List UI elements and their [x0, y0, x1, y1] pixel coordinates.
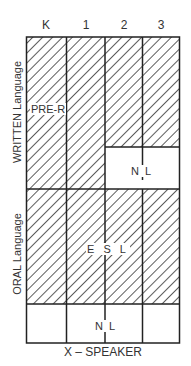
region-label-pre-r: PRE-R	[30, 103, 66, 115]
region-label-nl-oral: N L	[94, 320, 116, 332]
row-label-oral: ORAL Language	[11, 213, 23, 295]
region-label-nl-written: N L	[130, 165, 152, 177]
region-label-esl: E S L	[86, 243, 130, 255]
grid-graphic	[0, 0, 191, 366]
row-label-written: WRITTEN Language	[11, 61, 23, 163]
x-axis-label: X – SPEAKER	[26, 345, 180, 359]
